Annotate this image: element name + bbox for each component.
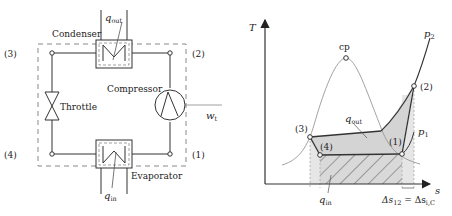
- throttle-label: Throttle: [60, 102, 97, 112]
- evaporator-label: Evaporator: [131, 171, 183, 181]
- state-2-label: (2): [192, 49, 205, 59]
- s-axis-label: s: [435, 185, 440, 196]
- q-in-hatch: [320, 155, 402, 184]
- t-axis-label: T: [249, 22, 257, 33]
- ts-state-4-label: (4): [320, 142, 333, 152]
- throttle-valve-icon: [45, 92, 59, 120]
- critical-point-label: cp: [339, 42, 350, 52]
- ts-state-2-label: (2): [420, 82, 433, 92]
- work-label: wt: [206, 110, 218, 123]
- q-in-label: qin: [104, 190, 117, 203]
- condenser-label: Condenser: [52, 29, 102, 39]
- ts-state-1-label: (1): [389, 137, 402, 147]
- q-out-label: qout: [105, 12, 123, 25]
- state-4-label: (4): [4, 150, 17, 160]
- state-3-label: (3): [4, 49, 17, 59]
- ts-diagram: T s cp p2 p1 (2) (3) (4) (1) qout qin Δs…: [249, 20, 440, 207]
- cycle-schematic: Condenser Compressor Throttle Evaporator…: [4, 10, 222, 203]
- p1-label: p1: [418, 126, 429, 139]
- state-1-label: (1): [192, 150, 205, 160]
- figure: Condenser Compressor Throttle Evaporator…: [0, 0, 452, 216]
- evaporator: [96, 140, 132, 194]
- entropy-equality-label: Δs12 = Δsi,C: [381, 195, 435, 207]
- ts-state-3-label: (3): [295, 124, 308, 134]
- compressor-label: Compressor: [107, 84, 163, 94]
- ts-q-out-label: qout: [345, 113, 363, 126]
- ts-q-in-label: qin: [319, 194, 332, 207]
